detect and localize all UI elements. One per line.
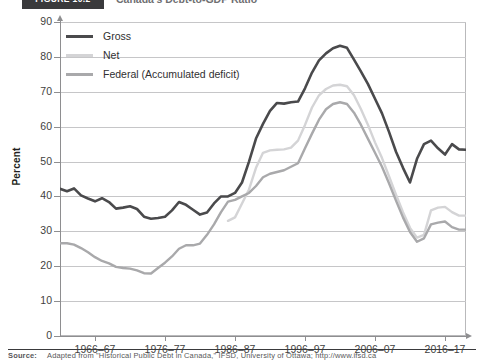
x-axis-tick <box>235 336 236 341</box>
y-axis-tick-label: 60 <box>16 121 52 132</box>
source-text: Adapted from "Historical Public Debt in … <box>47 351 376 360</box>
chart-canvas: 9080706050403020100 Percent 1966–671976–… <box>0 11 484 347</box>
series-line-federal <box>60 102 466 273</box>
x-axis-arrow-icon <box>466 333 472 339</box>
series-line-net <box>228 85 466 238</box>
x-axis-tick <box>165 336 166 341</box>
x-axis-tick <box>305 336 306 341</box>
y-axis-tick-label: 20 <box>16 260 52 271</box>
y-axis-arrow-icon <box>57 15 63 21</box>
source-note: Source:Adapted from "Historical Public D… <box>8 351 480 360</box>
footer-divider <box>8 349 476 350</box>
x-axis-tick <box>95 336 96 341</box>
y-axis-tick-label: 70 <box>16 86 52 97</box>
y-axis-title: Percent <box>11 137 22 197</box>
y-axis-tick-label: 90 <box>16 16 52 27</box>
y-axis-tick-label: 30 <box>16 225 52 236</box>
source-label: Source: <box>8 351 37 360</box>
series-line-gross <box>60 46 466 219</box>
data-series-group <box>60 22 466 336</box>
x-axis-tick <box>375 336 376 341</box>
x-axis-line <box>60 336 469 337</box>
y-axis-tick-label: 10 <box>16 295 52 306</box>
x-axis-tick <box>445 336 446 341</box>
figure-title-band: FIGURE 10.2 Canada's Debt-to-GDP Ratio <box>0 0 484 11</box>
page-title: Canada's Debt-to-GDP Ratio <box>116 0 257 9</box>
figure-number-tag: FIGURE 10.2 <box>22 0 104 9</box>
y-axis-tick-labels: 9080706050403020100 <box>0 11 52 347</box>
y-axis-tick-label: 0 <box>16 330 52 341</box>
y-axis-tick-label: 80 <box>16 51 52 62</box>
